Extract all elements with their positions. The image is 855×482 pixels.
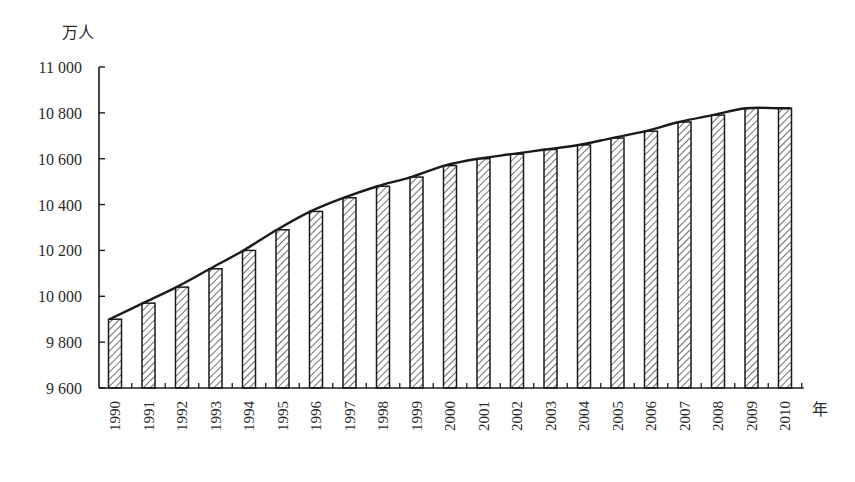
y-tick-label: 9 600 [46, 380, 82, 397]
bar-2008 [712, 115, 725, 388]
x-tick-label: 2001 [476, 401, 492, 431]
bar-2005 [611, 138, 624, 388]
bar-2007 [678, 122, 691, 388]
y-tick-label: 11 000 [39, 59, 82, 76]
bar-2010 [779, 108, 792, 388]
chart-canvas: 万人 9 6009 80010 00010 20010 40010 60010 … [0, 0, 855, 482]
bar-1990 [109, 319, 122, 388]
bar-2002 [511, 154, 524, 388]
x-tick-label: 1997 [342, 401, 358, 432]
bar-1992 [176, 287, 189, 388]
x-tick-label: 1995 [275, 401, 291, 431]
x-tick-label: 1999 [409, 401, 425, 431]
bar-1993 [209, 269, 222, 388]
x-tick-label: 2006 [643, 401, 659, 432]
bar-1994 [243, 250, 256, 388]
bar-2000 [444, 166, 457, 388]
y-axis: 9 6009 80010 00010 20010 40010 60010 800… [38, 59, 105, 397]
x-tick-label: 2007 [677, 401, 693, 432]
bar-1995 [276, 230, 289, 388]
bar-1999 [410, 177, 423, 388]
x-tick-label: 1992 [174, 401, 190, 431]
x-axis-label: 年 [812, 401, 828, 418]
bar-2004 [578, 145, 591, 388]
x-tick-label: 2000 [442, 401, 458, 431]
bar-1998 [377, 186, 390, 388]
x-tick-label: 1998 [375, 401, 391, 431]
bar-1996 [310, 211, 323, 388]
bar-series [109, 108, 792, 388]
y-tick-label: 10 200 [38, 242, 82, 259]
x-tick-label: 2005 [610, 401, 626, 431]
x-tick-label: 1990 [107, 401, 123, 431]
x-tick-label: 2002 [509, 401, 525, 431]
y-tick-label: 10 400 [38, 197, 82, 214]
y-tick-label: 10 800 [38, 105, 82, 122]
x-tick-label: 2004 [576, 401, 592, 432]
x-tick-label: 2008 [710, 401, 726, 431]
bar-2003 [544, 150, 557, 388]
x-tick-label: 2009 [744, 401, 760, 431]
bar-2001 [477, 159, 490, 388]
bar-1997 [343, 198, 356, 388]
population-bar-chart: 万人 9 6009 80010 00010 20010 40010 60010 … [0, 0, 855, 482]
x-tick-label: 1996 [308, 401, 324, 432]
y-tick-label: 10 000 [38, 288, 82, 305]
x-tick-label: 1994 [241, 401, 257, 432]
bar-1991 [142, 303, 155, 388]
x-tick-labels: 1990199119921993199419951996199719981999… [107, 401, 793, 432]
bar-2006 [645, 131, 658, 388]
x-tick-label: 1991 [141, 401, 157, 431]
y-tick-label: 9 800 [46, 334, 82, 351]
bar-2009 [745, 108, 758, 388]
x-tick-label: 2003 [543, 401, 559, 431]
x-tick-label: 1993 [208, 401, 224, 431]
y-tick-label: 10 600 [38, 151, 82, 168]
x-tick-label: 2010 [777, 401, 793, 431]
y-axis-label: 万人 [62, 24, 94, 41]
